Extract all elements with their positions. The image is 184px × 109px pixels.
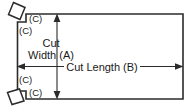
cut-width-label-line1: Cut (42, 37, 59, 49)
corner-label-top-outer: (C) (29, 13, 42, 24)
corner-label-bottom-outer: (C) (29, 87, 42, 98)
corner-cutoff-piece-top-shape (9, 3, 26, 20)
cut-dimension-diagram: Cut Width (A) Cut Length (B) (C) (C) (C)… (0, 0, 184, 109)
corner-label-bottom-inner: (C) (19, 74, 32, 85)
cut-length-label: Cut Length (B) (66, 61, 138, 73)
diagram-canvas: Cut Width (A) Cut Length (B) (C) (C) (C)… (0, 0, 184, 109)
corner-cutoff-piece-top (9, 3, 26, 20)
cut-width-label-line2: Width (A) (28, 49, 74, 61)
corner-label-top-inner: (C) (19, 25, 32, 36)
